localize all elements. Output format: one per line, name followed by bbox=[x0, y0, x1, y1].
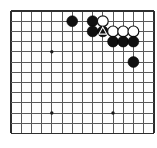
black-stone[interactable] bbox=[67, 16, 78, 27]
white-stone[interactable] bbox=[108, 26, 119, 37]
white-stone[interactable] bbox=[118, 26, 129, 37]
black-stone[interactable] bbox=[87, 16, 98, 27]
go-board-grid[interactable] bbox=[0, 0, 157, 148]
star-point-0 bbox=[50, 50, 53, 53]
black-stone[interactable] bbox=[118, 36, 129, 47]
black-stone[interactable] bbox=[87, 26, 98, 37]
black-stone[interactable] bbox=[108, 36, 119, 47]
star-point-1 bbox=[50, 111, 53, 114]
white-stone[interactable] bbox=[128, 26, 139, 37]
white-stone[interactable] bbox=[97, 16, 108, 27]
star-point-2 bbox=[111, 111, 114, 114]
black-stone[interactable] bbox=[128, 57, 139, 68]
go-board-figure bbox=[0, 0, 157, 148]
black-stone[interactable] bbox=[128, 36, 139, 47]
